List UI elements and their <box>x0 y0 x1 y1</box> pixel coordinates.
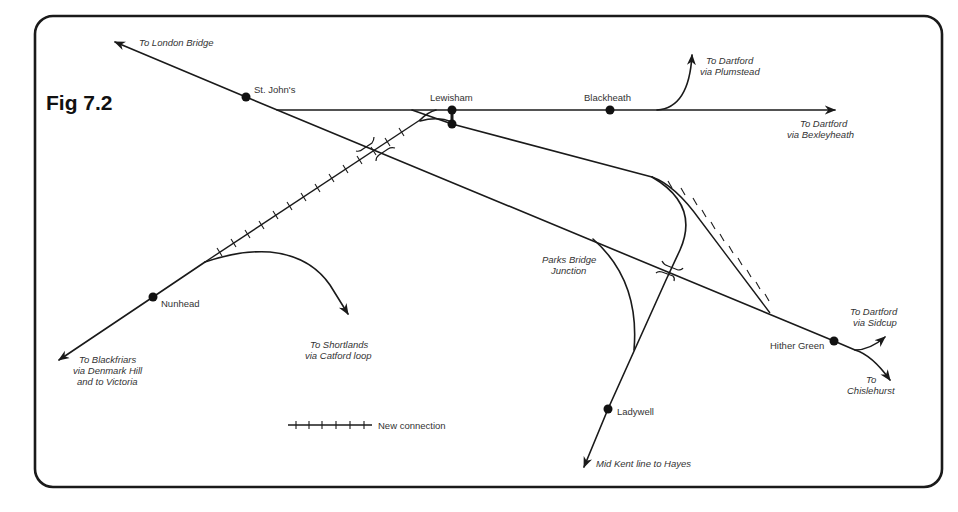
station-dot-ladywell <box>604 405 613 414</box>
junction-label-parks-bridge: Parks Bridge Junction <box>542 254 599 276</box>
line-london-bridge-hither-green <box>115 42 834 341</box>
station-label-hither-green: Hither Green <box>770 340 824 351</box>
dest-blackfriars: To Blackfriars via Denmark Hill and to V… <box>73 354 145 387</box>
dest-shortlands: To Shortlands via Catford loop <box>305 339 372 361</box>
line-lewisham-south <box>452 124 652 177</box>
line-plumstead-branch <box>657 55 692 110</box>
station-dot-lewisham-upper <box>448 106 457 115</box>
line-nunhead-blackfriars <box>59 262 205 360</box>
station-dot-nunhead <box>149 293 158 302</box>
legend: New connection <box>288 420 446 431</box>
dest-dartford-bexleyheath: To Dartford via Bexleyheath <box>787 118 854 140</box>
railway-diagram: Fig 7.2 <box>0 0 958 512</box>
diagram-frame <box>35 16 942 487</box>
station-label-ladywell: Ladywell <box>617 406 654 417</box>
legend-new-connection-label: New connection <box>378 420 446 431</box>
dest-dartford-sidcup: To Dartford via Sidcup <box>850 306 900 328</box>
station-dot-st-johns <box>242 93 251 102</box>
dest-dartford-plumstead: To Dartford via Plumstead <box>700 55 760 77</box>
line-catford-loop <box>205 252 348 314</box>
line-chislehurst-branch <box>834 341 890 380</box>
station-label-st-johns: St. John's <box>254 84 296 95</box>
station-label-nunhead: Nunhead <box>161 298 200 309</box>
station-label-lewisham: Lewisham <box>430 92 473 103</box>
new-connection-nunhead-lewisham <box>205 120 420 262</box>
dest-hayes: Mid Kent line to Hayes <box>596 458 691 469</box>
dest-london-bridge: To London Bridge <box>139 37 214 48</box>
line-sidcup-branch <box>855 337 885 350</box>
figure-title: Fig 7.2 <box>46 91 113 114</box>
station-label-blackheath: Blackheath <box>584 92 631 103</box>
station-dot-hither-green <box>830 337 839 346</box>
station-dot-blackheath <box>606 106 615 115</box>
new-connection-lewisham-hither-green <box>652 177 770 313</box>
station-dot-lewisham-lower <box>448 120 457 129</box>
